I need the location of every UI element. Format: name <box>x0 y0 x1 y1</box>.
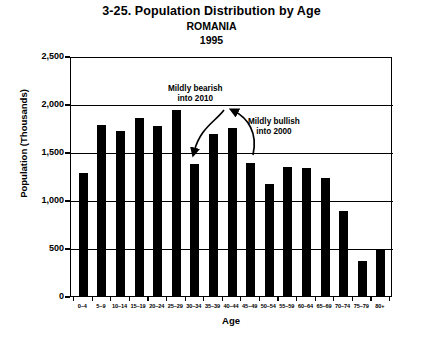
bar-series <box>71 58 393 296</box>
bar-cell <box>74 58 93 296</box>
y-tick-label: 1,000 <box>6 195 64 205</box>
bar-cell <box>334 58 353 296</box>
x-tick <box>333 297 334 301</box>
bar <box>97 125 106 296</box>
x-tick-label: 10–14 <box>110 303 129 315</box>
x-tick-label: 25–29 <box>166 303 185 315</box>
bar <box>172 110 181 296</box>
bar <box>135 118 144 296</box>
plot-area <box>70 57 392 297</box>
x-tick-label: 15–19 <box>129 303 148 315</box>
x-tick <box>315 297 316 301</box>
x-tick-label: 5–9 <box>92 303 111 315</box>
bar <box>246 163 255 296</box>
bar-cell <box>93 58 112 296</box>
x-tick-label: 20–24 <box>147 303 166 315</box>
x-axis-labels: 0–45–910–1415–1920–2425–2930–3435–3940–4… <box>70 303 392 315</box>
bar <box>358 261 367 296</box>
bar <box>376 250 385 296</box>
bar-cell <box>241 58 260 296</box>
bar-cell <box>111 58 130 296</box>
x-tick-label: 65–69 <box>315 303 334 315</box>
y-tick-label: 1,500 <box>6 147 64 157</box>
bar <box>116 131 125 296</box>
x-tick-label: 60–64 <box>296 303 315 315</box>
x-tick <box>259 297 260 301</box>
annotation-bullish-line1: Mildly bullish <box>248 117 300 127</box>
bar-cell <box>260 58 279 296</box>
x-tick <box>129 297 130 301</box>
x-tick <box>389 297 390 301</box>
gridline <box>71 153 393 154</box>
x-tick <box>147 297 148 301</box>
bar <box>339 211 348 296</box>
x-tick-label: 45–49 <box>240 303 259 315</box>
x-tick-label: 55–59 <box>278 303 297 315</box>
x-tick <box>185 297 186 301</box>
y-axis-title: Population (Thousands) <box>18 49 29 239</box>
bar <box>283 167 292 296</box>
annotation-bearish-line2: into 2010 <box>168 94 223 104</box>
x-tick-label: 50–54 <box>259 303 278 315</box>
y-axis-labels: 2,5002,0001,5001,0005000 <box>0 0 64 344</box>
gridline <box>71 249 393 250</box>
annotation-bullish: Mildly bullish into 2000 <box>248 117 300 137</box>
bar-cell <box>316 58 335 296</box>
y-tick-label: 0 <box>6 291 64 301</box>
bar-cell <box>130 58 149 296</box>
bar-cell <box>372 58 391 296</box>
x-tick <box>277 297 278 301</box>
bar <box>79 173 88 296</box>
x-tick-label: 30–34 <box>185 303 204 315</box>
bar <box>190 164 199 296</box>
bar <box>209 134 218 296</box>
x-axis-ticks <box>70 297 392 302</box>
x-tick <box>73 297 74 301</box>
annotation-bullish-line2: into 2000 <box>248 127 300 137</box>
bar <box>321 178 330 296</box>
x-tick-label: 80+ <box>371 303 390 315</box>
bar-cell <box>297 58 316 296</box>
x-tick <box>110 297 111 301</box>
gridline <box>71 201 393 202</box>
x-tick-label: 40–44 <box>222 303 241 315</box>
x-tick <box>370 297 371 301</box>
bar-cell <box>279 58 298 296</box>
x-tick <box>203 297 204 301</box>
x-tick <box>166 297 167 301</box>
x-tick-label: 70–74 <box>333 303 352 315</box>
gridline <box>71 105 393 106</box>
bar-cell <box>148 58 167 296</box>
x-tick <box>296 297 297 301</box>
y-tick-label: 500 <box>6 243 64 253</box>
chart-page: 3-25. Population Distribution by Age ROM… <box>0 0 423 344</box>
bar-cell <box>353 58 372 296</box>
annotation-bearish-line1: Mildly bearish <box>168 84 223 94</box>
y-tick-label: 2,000 <box>6 99 64 109</box>
x-tick <box>352 297 353 301</box>
x-tick <box>222 297 223 301</box>
x-tick-label: 0–4 <box>73 303 92 315</box>
y-tick-label: 2,500 <box>6 51 64 61</box>
annotation-bearish: Mildly bearish into 2010 <box>168 84 223 104</box>
x-tick-label: 75–79 <box>352 303 371 315</box>
x-tick <box>92 297 93 301</box>
x-axis-title: Age <box>70 315 392 326</box>
x-tick-label: 35–39 <box>203 303 222 315</box>
x-tick <box>240 297 241 301</box>
bar-cell <box>223 58 242 296</box>
bar <box>153 126 162 296</box>
bar <box>302 168 311 296</box>
